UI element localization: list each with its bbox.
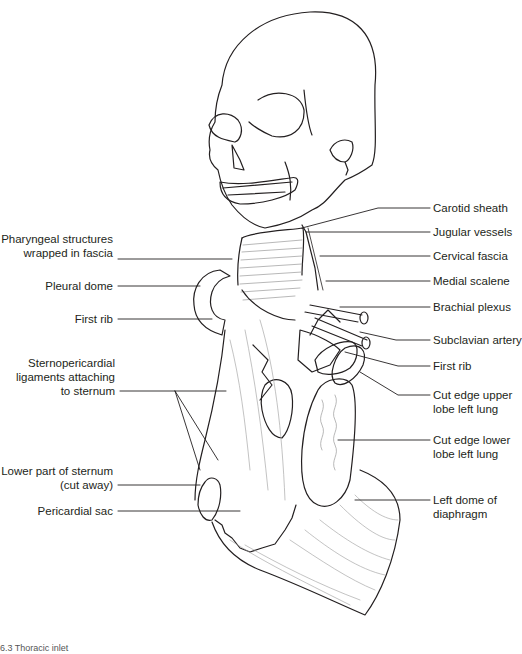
label-line: Carotid sheath bbox=[433, 201, 508, 215]
leader-lines bbox=[118, 208, 430, 511]
pleural-dome-drawing bbox=[194, 270, 230, 335]
label-sternopericardial-ligaments: Sternopericardial ligaments attaching to… bbox=[16, 356, 115, 398]
label-subclavian-artery: Subclavian artery bbox=[433, 333, 522, 347]
neck-drawing bbox=[238, 225, 323, 300]
label-line: ligaments attaching bbox=[16, 370, 115, 384]
label-line: diaphragm bbox=[433, 507, 497, 521]
label-line: Jugular vessels bbox=[433, 225, 512, 239]
label-pericardial-sac: Pericardial sac bbox=[38, 504, 113, 518]
label-line: Pharyngeal structures bbox=[1, 232, 113, 246]
label-cut-edge-lower-lobe: Cut edge lower lobe left lung bbox=[433, 433, 510, 461]
label-lower-sternum: Lower part of sternum (cut away) bbox=[1, 464, 113, 492]
label-brachial-plexus: Brachial plexus bbox=[433, 300, 511, 314]
label-line: Pericardial sac bbox=[38, 504, 113, 518]
label-left-dome-diaphragm: Left dome of diaphragm bbox=[433, 493, 497, 521]
label-line: (cut away) bbox=[1, 478, 113, 492]
label-cut-edge-upper-lobe: Cut edge upper lobe left lung bbox=[433, 388, 512, 416]
label-medial-scalene: Medial scalene bbox=[433, 274, 510, 288]
label-line: Lower part of sternum bbox=[1, 464, 113, 478]
label-line: Left dome of bbox=[433, 493, 497, 507]
label-pleural-dome: Pleural dome bbox=[45, 279, 113, 293]
label-line: Cut edge upper bbox=[433, 388, 512, 402]
label-line: Brachial plexus bbox=[433, 300, 511, 314]
label-first-rib-right: First rib bbox=[433, 359, 471, 373]
label-jugular-vessels: Jugular vessels bbox=[433, 225, 512, 239]
label-first-rib-left: First rib bbox=[75, 312, 113, 326]
label-carotid-sheath: Carotid sheath bbox=[433, 201, 508, 215]
label-line: Sternopericardial bbox=[16, 356, 115, 370]
label-line: Cervical fascia bbox=[433, 249, 508, 263]
label-cervical-fascia: Cervical fascia bbox=[433, 249, 508, 263]
label-line: to sternum bbox=[16, 384, 115, 398]
label-line: Subclavian artery bbox=[433, 333, 522, 347]
label-line: Cut edge lower bbox=[433, 433, 510, 447]
label-pharyngeal-structures: Pharyngeal structures wrapped in fascia bbox=[1, 232, 113, 260]
figure-caption: 6.3 Thoracic inlet bbox=[0, 643, 68, 653]
label-line: Medial scalene bbox=[433, 274, 510, 288]
label-line: First rib bbox=[75, 312, 113, 326]
label-line: lobe left lung bbox=[433, 447, 510, 461]
mediastinum-drawing bbox=[195, 290, 400, 615]
skull-drawing bbox=[209, 12, 376, 228]
label-line: wrapped in fascia bbox=[1, 246, 113, 260]
label-line: Pleural dome bbox=[45, 279, 113, 293]
label-line: lobe left lung bbox=[433, 402, 512, 416]
label-line: First rib bbox=[433, 359, 471, 373]
